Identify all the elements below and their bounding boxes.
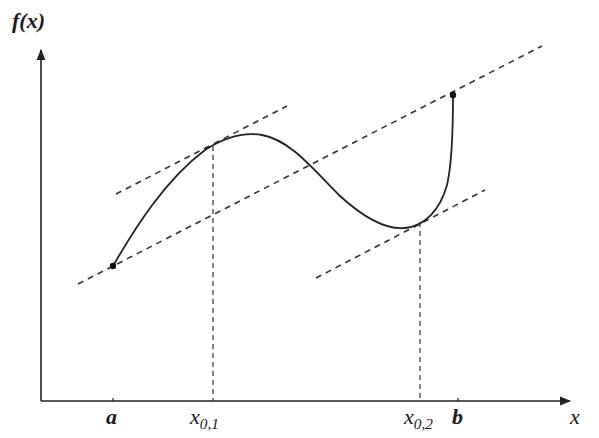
- tangent-line-x01: [116, 106, 287, 194]
- endpoint-a-marker: [110, 263, 116, 269]
- tick-label-x01-sub: 0,1: [200, 415, 219, 432]
- endpoint-b-marker: [450, 92, 456, 98]
- tick-label-x01: x0,1: [190, 406, 219, 428]
- tick-label-a: a: [106, 406, 117, 428]
- tick-label-x02-sub: 0,2: [414, 415, 433, 432]
- x-axis-label: x: [570, 406, 580, 428]
- tick-label-x02-base: x: [404, 404, 414, 429]
- tick-label-x01-base: x: [190, 404, 200, 429]
- mean-value-theorem-diagram: [0, 0, 599, 438]
- tick-label-x02: x0,2: [404, 406, 433, 428]
- tangent-line-x02: [316, 190, 485, 278]
- function-curve: [113, 95, 453, 266]
- y-axis-label: f(x): [12, 10, 45, 32]
- tick-label-b: b: [452, 406, 463, 428]
